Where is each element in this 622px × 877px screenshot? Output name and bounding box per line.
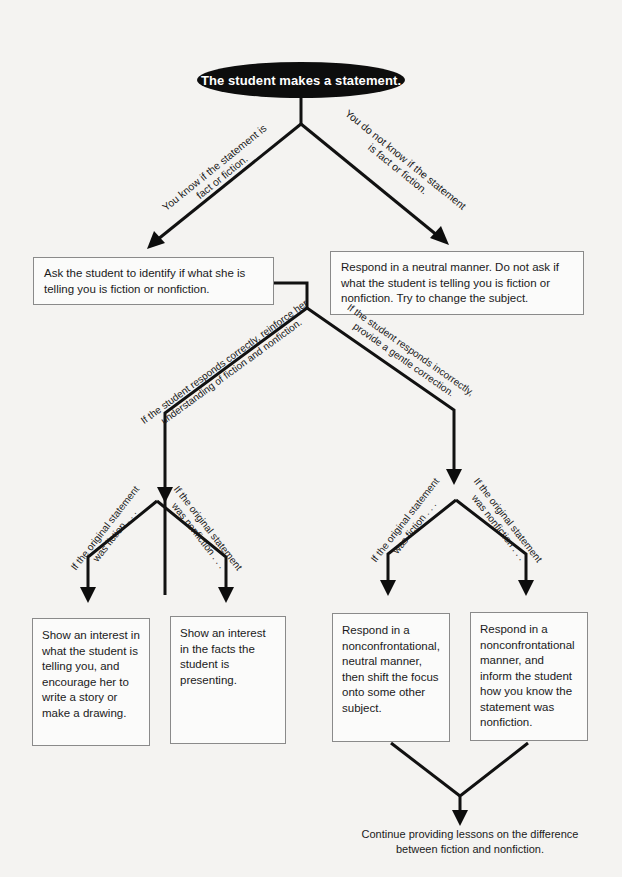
end-node: Continue providing lessons on the differ… <box>360 827 580 857</box>
box-ask-student: Ask the student to identify if what she … <box>33 257 274 305</box>
box-shift-focus: Respond in a nonconfrontational, neutral… <box>332 613 450 742</box>
box-respond-neutral: Respond in a neutral manner. Do not ask … <box>330 251 584 315</box>
box-show-interest-facts: Show an interest in the facts the studen… <box>170 616 286 744</box>
box-inform-nonfiction: Respond in a nonconfrontational manner, … <box>470 612 588 741</box>
start-node: The student makes a statement. <box>197 62 405 98</box>
start-node-text: The student makes a statement. <box>201 73 401 88</box>
box-encourage-story: Show an interest in what the student is … <box>32 618 150 746</box>
